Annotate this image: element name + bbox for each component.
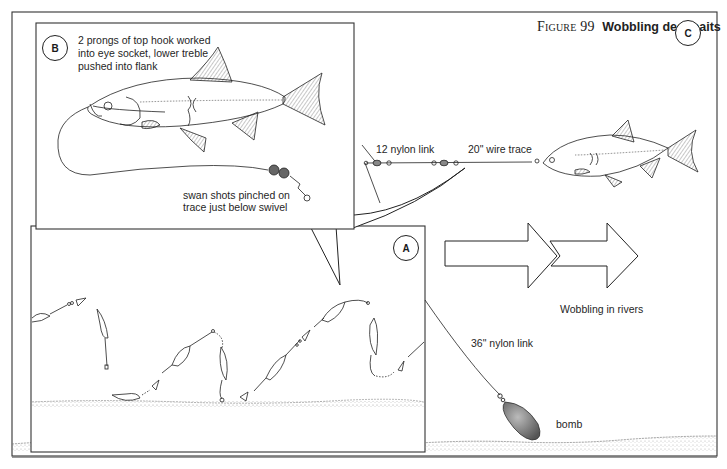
panel-a (31, 226, 425, 452)
label-36-nylon-link: 36" nylon link (471, 337, 533, 350)
panel-c-badge: C (675, 20, 701, 46)
label-wobbling-in-rivers: Wobbling in rivers (560, 303, 643, 316)
current-direction-arrows (445, 223, 638, 288)
hook-caption-line-1: 2 prongs of top hook worked (78, 34, 211, 47)
shots-caption-line-2: trace just below swivel (183, 201, 287, 214)
panel-a-badge: A (393, 235, 419, 261)
figure-name: Wobbling deadbaits (602, 20, 721, 34)
label-12-nylon-link: 12 nylon link (376, 143, 434, 156)
hook-caption-line-2: into eye socket, lower treble (78, 47, 208, 60)
bomb-rig (425, 300, 540, 440)
hook-caption-line-3: pushed into flank (78, 60, 157, 73)
figure-canvas: Figure 99 Wobbling deadbaits C B A 2 pro… (0, 0, 727, 469)
figure-number: Figure 99 (537, 19, 595, 34)
panel-b-badge: B (42, 35, 68, 61)
label-bomb: bomb (556, 418, 582, 431)
panel-c-rig (362, 120, 698, 203)
label-wire-trace: 20" wire trace (468, 143, 532, 156)
